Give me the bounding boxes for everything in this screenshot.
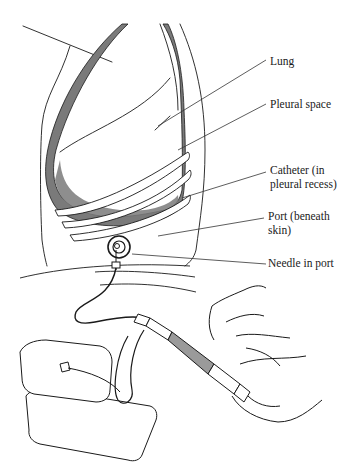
tubing bbox=[75, 268, 142, 323]
leader-lung bbox=[158, 60, 266, 126]
label-catheter-line1: Catheter (in bbox=[270, 163, 325, 177]
port-icon bbox=[108, 236, 130, 258]
label-port-line1: Port (beneath bbox=[268, 209, 330, 223]
label-pleural-space: Pleural space bbox=[270, 97, 331, 111]
syringe bbox=[134, 314, 250, 402]
label-port-line2: skin) bbox=[268, 223, 291, 237]
hands bbox=[209, 286, 322, 422]
drainage-bag bbox=[20, 330, 157, 461]
body-outline-left bbox=[41, 46, 71, 266]
leader-port bbox=[158, 218, 264, 236]
pleural-port-diagram: Lung Pleural space Catheter (in pleural … bbox=[0, 0, 363, 475]
label-needle: Needle in port bbox=[268, 256, 334, 270]
label-lung: Lung bbox=[270, 54, 294, 68]
illustration bbox=[0, 0, 363, 475]
leader-pleural-space bbox=[178, 104, 266, 150]
chest-wall-inner bbox=[160, 24, 178, 110]
leader-lines bbox=[132, 60, 266, 264]
leader-catheter bbox=[182, 172, 266, 198]
leader-needle bbox=[132, 254, 266, 264]
label-catheter-line2: pleural recess) bbox=[270, 177, 337, 191]
